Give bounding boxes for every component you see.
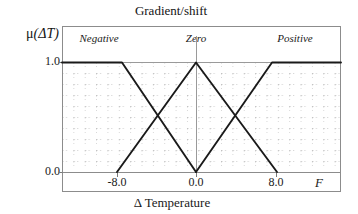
y-axis-ticks bbox=[58, 63, 63, 173]
plot-area bbox=[0, 0, 358, 214]
x-axis-ticks bbox=[118, 173, 277, 178]
fuzzy-membership-chart: Gradient/shift μ(ΔT) 1.0 0.0 -8.0 0.0 8.… bbox=[0, 0, 358, 214]
plot-grid bbox=[62, 62, 341, 172]
